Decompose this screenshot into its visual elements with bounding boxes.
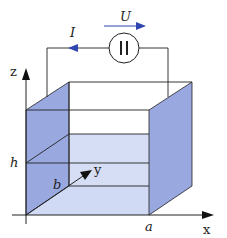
x-axis-arrow-icon [202, 211, 214, 219]
label-height: h [10, 155, 18, 170]
label-current: I [69, 25, 76, 40]
label-z-axis: z [10, 64, 17, 79]
label-width: a [145, 219, 153, 234]
label-x-axis: x [203, 222, 211, 237]
voltmeter [109, 33, 139, 63]
label-voltage: U [120, 9, 132, 24]
label-y-axis: y [93, 162, 102, 177]
liquid-front-region [69, 134, 149, 186]
capacitor-diagram: U I z x y h b a [0, 0, 227, 238]
right-plate [149, 82, 192, 215]
z-axis-arrow-icon [22, 68, 30, 80]
diagram-canvas: U I z x y h b a [0, 0, 227, 238]
label-depth: b [53, 177, 61, 192]
voltage-arrow-icon [136, 22, 146, 30]
current-arrow-icon [68, 44, 78, 52]
